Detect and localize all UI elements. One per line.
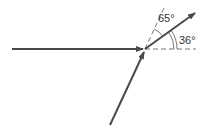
angle-label-65: 65° bbox=[158, 12, 175, 24]
angle-label-36: 36° bbox=[179, 34, 196, 46]
angle-arc-65 bbox=[154, 29, 163, 36]
angled-vector bbox=[110, 52, 144, 125]
angle-arc-36-inner bbox=[169, 32, 174, 49]
vector-diagram: 65° 36° bbox=[0, 0, 203, 137]
